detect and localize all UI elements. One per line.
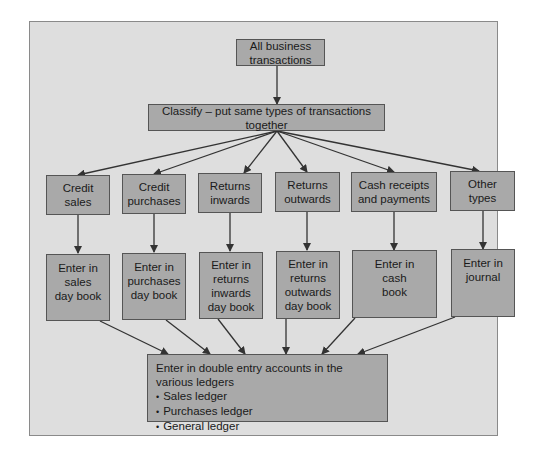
category-line: Returns — [210, 179, 250, 193]
category-other-types: Other types — [450, 171, 515, 211]
book-line: day book — [208, 300, 255, 314]
category-line: sales — [65, 195, 92, 209]
category-line: Other — [468, 177, 497, 191]
book-line: Enter in — [375, 257, 415, 271]
book-line: inwards — [211, 286, 251, 300]
ledger-node: Enter in double entry accounts in the va… — [147, 354, 388, 422]
book-line: book — [382, 285, 407, 299]
book-line: Enter in — [288, 257, 328, 271]
category-line: and payments — [358, 192, 430, 206]
category-line: purchases — [127, 194, 180, 208]
category-line: types — [469, 191, 497, 205]
book-line: returns — [213, 272, 249, 286]
book-line: journal — [466, 270, 501, 284]
ledger-item-sales: Sales ledger — [156, 389, 253, 404]
root-label: All business transactions — [237, 39, 324, 67]
category-credit-sales: Credit sales — [46, 175, 110, 215]
book-line: purchases — [127, 274, 180, 288]
category-cash-receipts-payments: Cash receipts and payments — [351, 172, 437, 212]
book-cash-book: Enter in cash book — [352, 250, 437, 318]
book-purchases-day-book: Enter in purchases day book — [122, 253, 186, 320]
book-line: day book — [131, 288, 178, 302]
book-line: day book — [285, 299, 332, 313]
category-returns-inwards: Returns inwards — [198, 173, 262, 213]
book-line: outwards — [285, 285, 332, 299]
book-line: cash — [382, 271, 406, 285]
root-node: All business transactions — [236, 39, 325, 66]
classify-label: Classify – put same types of transaction… — [149, 104, 384, 132]
category-credit-purchases: Credit purchases — [122, 174, 186, 214]
category-line: inwards — [210, 193, 250, 207]
book-line: returns — [290, 271, 326, 285]
classify-node: Classify – put same types of transaction… — [148, 104, 385, 131]
category-line: Cash receipts — [359, 178, 429, 192]
category-line: Credit — [139, 180, 170, 194]
category-line: outwards — [284, 192, 331, 206]
book-journal: Enter in journal — [451, 249, 515, 317]
ledger-heading: Enter in double entry accounts in the va… — [156, 361, 381, 389]
book-line: Enter in — [463, 256, 503, 270]
category-line: Credit — [63, 181, 94, 195]
book-returns-inwards-day-book: Enter in returns inwards day book — [199, 252, 263, 319]
book-returns-outwards-day-book: Enter in returns outwards day book — [276, 251, 340, 319]
book-line: Enter in — [134, 260, 174, 274]
book-line: Enter in — [58, 261, 98, 275]
book-line: sales — [65, 275, 92, 289]
category-returns-outwards: Returns outwards — [275, 172, 340, 212]
ledger-item-purchases: Purchases ledger — [156, 404, 253, 419]
ledger-list: Sales ledger Purchases ledger General le… — [156, 389, 253, 434]
ledger-item-general: General ledger — [156, 419, 253, 434]
category-line: Returns — [287, 178, 327, 192]
book-sales-day-book: Enter in sales day book — [46, 254, 110, 321]
book-line: Enter in — [211, 258, 251, 272]
book-line: day book — [55, 289, 102, 303]
